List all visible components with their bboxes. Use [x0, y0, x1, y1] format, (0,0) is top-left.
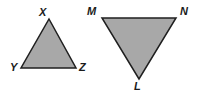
vertex-label-z: Z — [79, 62, 86, 73]
vertex-label-y: Y — [10, 62, 17, 73]
triangles-diagram — [0, 0, 198, 96]
vertex-label-l: L — [134, 81, 141, 92]
geometry-figure: X Y Z M N L — [0, 0, 198, 96]
vertex-label-x: X — [39, 7, 46, 18]
triangle-xyz-shape — [21, 19, 76, 68]
triangle-mnl-shape — [102, 18, 176, 79]
vertex-label-m: M — [87, 6, 96, 17]
vertex-label-n: N — [180, 6, 188, 17]
